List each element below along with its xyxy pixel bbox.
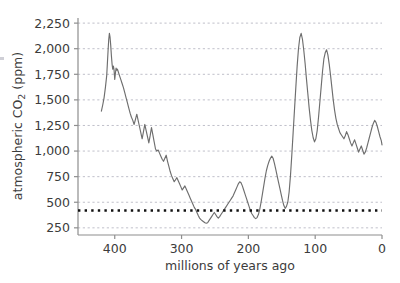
y-tick-label-2: 750 [46,169,70,184]
y-axis-title-unit: (ppm) [10,52,25,94]
co2-history-chart: 4003002001000 2505007501,0001,2501,5001,… [0,0,400,283]
y-tick-label-6: 1,750 [34,67,70,82]
x-tick-label-4: 0 [378,241,386,256]
x-axis-title: millions of years ago [165,258,295,273]
x-tick-label-2: 200 [236,241,260,256]
x-tick-label-3: 100 [303,241,327,256]
chart-canvas: 4003002001000 2505007501,0001,2501,5001,… [0,0,400,283]
y-tick-label-8: 2,250 [34,16,70,31]
y-tick-label-0: 250 [46,220,70,235]
y-tick-label-3: 1,000 [34,143,70,158]
x-tick-label-1: 300 [170,241,194,256]
y-tick-label-7: 2,000 [34,41,70,56]
y-axis-title-main: atmospheric CO [10,100,25,201]
y-tick-label-4: 1,250 [34,118,70,133]
x-tick-label-0: 400 [103,241,127,256]
y-axis-title: atmospheric CO2 (ppm) [10,52,27,200]
y-tick-label-1: 500 [46,195,70,210]
y-tick-label-5: 1,500 [34,92,70,107]
left-edge-artifact [0,57,4,60]
